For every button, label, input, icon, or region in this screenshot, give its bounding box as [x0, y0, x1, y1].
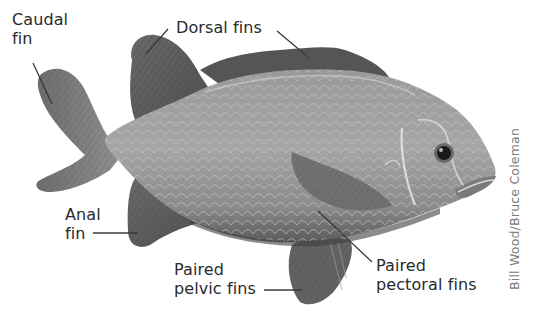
fish-anatomy-diagram: Caudal fin Dorsal fins Anal fin Paired p… [0, 0, 544, 325]
label-pelvic-line2: pelvic fins [174, 279, 256, 298]
label-anal-line2: fin [65, 224, 101, 243]
eye-pupil [437, 146, 451, 160]
label-dorsal-line1: Dorsal fins [176, 18, 262, 37]
label-pectoral-line1: Paired [376, 256, 477, 275]
label-caudal-line2: fin [12, 29, 68, 48]
label-caudal-fin: Caudal fin [12, 10, 68, 48]
label-anal-line1: Anal [65, 205, 101, 224]
label-caudal-line1: Caudal [12, 10, 68, 29]
photo-credit: Bill Wood/Bruce Coleman [507, 128, 522, 290]
label-pelvic-line1: Paired [174, 260, 256, 279]
caudal-fin-shape [36, 69, 118, 192]
pelvic-fin-shape [289, 237, 352, 304]
label-pelvic-fins: Paired pelvic fins [174, 260, 256, 298]
label-anal-fin: Anal fin [65, 205, 101, 243]
label-dorsal-fins: Dorsal fins [176, 18, 262, 37]
label-pectoral-fins: Paired pectoral fins [376, 256, 477, 294]
label-pectoral-line2: pectoral fins [376, 275, 477, 294]
